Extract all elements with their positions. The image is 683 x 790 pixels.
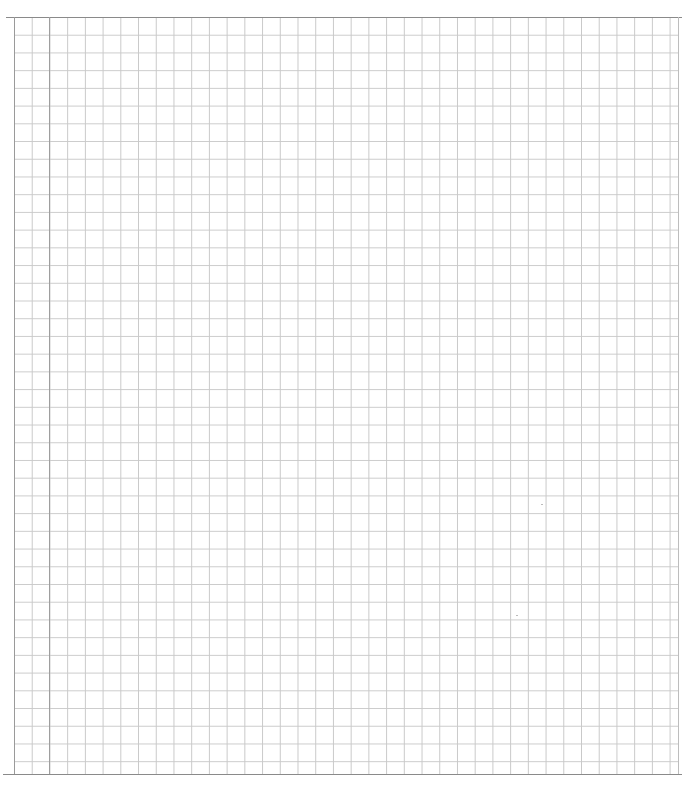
grid-bottom-border	[3, 774, 682, 775]
scan-speck	[516, 615, 518, 616]
grid-top-border	[6, 17, 682, 18]
graph-paper-sheet	[0, 0, 683, 790]
scan-speck	[541, 504, 543, 505]
grid-lines	[14, 17, 678, 774]
margin-line	[49, 17, 50, 774]
grid-left-border	[14, 17, 15, 774]
grid-right-border	[678, 17, 679, 774]
